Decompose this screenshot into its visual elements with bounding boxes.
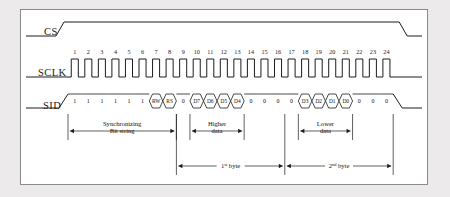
clock-number-23: 23 [370,48,376,55]
clock-number-1: 1 [73,48,76,55]
sid-bit-d2: D2 [315,98,322,104]
sid-bit-0: 0 [249,98,252,104]
sid-bit-d6: D6 [207,98,214,104]
sid-bit-rw: RW [152,98,161,104]
sid-bit-0: 0 [290,98,293,104]
clock-number-15: 15 [261,48,267,55]
annotation-byte2: 2nd byte [329,162,350,170]
sclk-waveform [26,59,422,77]
sid-bit-rs: RS [166,98,173,104]
clock-number-3: 3 [100,48,103,55]
diagram-stage: CS SCLK SID 1234567891011121314151617181… [0,0,450,197]
clock-number-16: 16 [275,48,281,55]
sid-bit-0: 0 [371,98,374,104]
sid-bit-d5: D5 [221,98,228,104]
annotation-higher-line1: Higher [208,120,227,127]
clock-number-18: 18 [302,48,308,55]
clock-number-12: 12 [221,48,227,55]
annotation-byte1: 1st byte [221,162,240,170]
clock-number-22: 22 [356,48,362,55]
clock-number-13: 13 [234,48,240,55]
annotation-higher-line2: data [212,127,223,134]
clock-numbers: 123456789101112131415161718192021222324 [73,48,389,55]
sid-bit-d4: D4 [234,98,241,104]
annotations: SynchronizingBit stringHigherdataLowerda… [68,114,393,175]
annotation-lower-line1: Lower [317,120,335,127]
clock-number-5: 5 [127,48,130,55]
clock-number-2: 2 [87,48,90,55]
clock-number-21: 21 [343,48,349,55]
clock-number-8: 8 [168,48,171,55]
clock-number-6: 6 [141,48,144,55]
sid-bit-1: 1 [127,98,130,104]
annotation-sync-line2: Bit string [110,127,135,134]
sid-bit-d7: D7 [193,98,200,104]
sid-bit-d3: D3 [302,98,309,104]
sid-bit-1: 1 [141,98,144,104]
sid-bit-0: 0 [358,98,361,104]
sid-bit-d1: D1 [329,98,336,104]
clock-number-7: 7 [155,48,158,55]
annotation-sync-line1: Synchronizing [103,120,142,127]
clock-number-20: 20 [329,48,335,55]
sid-bit-0: 0 [277,98,280,104]
clock-number-10: 10 [194,48,200,55]
sid-bit-1: 1 [87,98,90,104]
clock-number-17: 17 [288,48,294,55]
sid-bit-1: 1 [73,98,76,104]
clock-number-19: 19 [316,48,322,55]
clock-number-4: 4 [114,48,117,55]
sid-bit-0: 0 [182,98,185,104]
clock-number-9: 9 [182,48,185,55]
sid-bit-0: 0 [385,98,388,104]
cs-waveform [26,22,422,36]
timing-waveforms: 123456789101112131415161718192021222324 … [0,0,450,197]
sid-bit-1: 1 [100,98,103,104]
annotation-lower-line2: data [320,127,331,134]
clock-number-14: 14 [248,48,254,55]
clock-number-24: 24 [383,48,389,55]
sid-bit-d0: D0 [342,98,349,104]
sid-bit-1: 1 [114,98,117,104]
sid-bit-0: 0 [263,98,266,104]
clock-number-11: 11 [207,48,213,55]
